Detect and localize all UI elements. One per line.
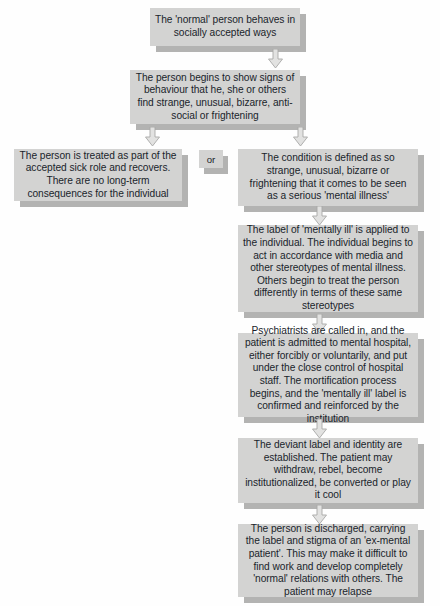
node-discharged-label: The person is discharged, carrying the l… bbox=[243, 523, 413, 599]
node-deviant-identity: The deviant label and identity are estab… bbox=[238, 438, 418, 503]
arrow-down-icon-4 bbox=[311, 419, 328, 439]
node-psychiatrists-admission-label: Psychiatrists are called in, and the pat… bbox=[243, 325, 413, 426]
node-discharged: The person is discharged, carrying the l… bbox=[238, 524, 418, 597]
node-defined-mental-illness-label: The condition is defined as so strange, … bbox=[243, 152, 413, 202]
node-label-applied: The label of 'mentally ill' is applied t… bbox=[238, 225, 418, 312]
or-connector-label: or bbox=[207, 154, 216, 165]
node-deviant-identity-label: The deviant label and identity are estab… bbox=[243, 439, 413, 502]
node-label-applied-label: The label of 'mentally ill' is applied t… bbox=[243, 224, 413, 312]
node-defined-mental-illness: The condition is defined as so strange, … bbox=[238, 149, 418, 206]
arrow-down-icon-1 bbox=[267, 49, 284, 69]
node-shows-signs-label: The person begins to show signs of behav… bbox=[135, 72, 295, 122]
arrow-down-icon-branch-left bbox=[144, 127, 161, 147]
arrow-down-icon-branch-right bbox=[292, 127, 309, 147]
node-psychiatrists-admission: Psychiatrists are called in, and the pat… bbox=[238, 333, 418, 417]
flowchart-diagram: The 'normal' person behaves in socially … bbox=[0, 0, 440, 606]
node-sick-role-recovery: The person is treated as part of the acc… bbox=[14, 149, 182, 201]
arrow-down-icon-2 bbox=[311, 206, 328, 226]
or-connector: or bbox=[199, 150, 223, 168]
node-normal-person-label: The 'normal' person behaves in socially … bbox=[155, 14, 295, 39]
node-sick-role-recovery-label: The person is treated as part of the acc… bbox=[19, 150, 177, 200]
node-shows-signs: The person begins to show signs of behav… bbox=[130, 70, 300, 124]
node-normal-person: The 'normal' person behaves in socially … bbox=[150, 8, 300, 46]
